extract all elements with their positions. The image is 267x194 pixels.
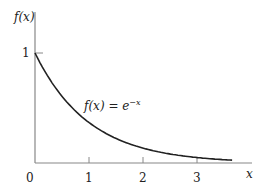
y-tick-label-1: 1: [22, 46, 30, 60]
exponential-decay-chart: f(x) 1 0 1 2 3 x f(x) = e−x: [0, 0, 267, 194]
x-tick-label-2: 2: [139, 171, 147, 185]
x-tick-label-1: 1: [85, 171, 93, 185]
x-tick-label-0: 0: [26, 171, 34, 185]
y-axis-label: f(x): [13, 10, 35, 24]
x-tick-label-3: 3: [193, 171, 201, 185]
function-annotation: f(x) = e−x: [83, 98, 141, 113]
x-axis-label: x: [246, 167, 253, 181]
